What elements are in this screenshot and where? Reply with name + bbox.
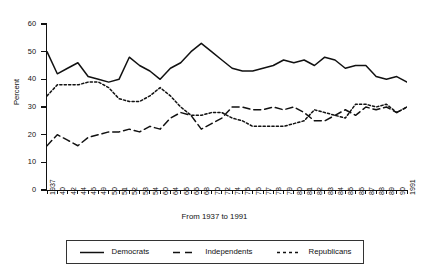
- x-axis-tick: [47, 190, 48, 194]
- x-axis-tick: [129, 190, 130, 194]
- legend-item-democrats[interactable]: Democrats: [79, 248, 150, 257]
- legend-swatch-dashed-icon: [172, 248, 198, 257]
- x-axis-tick: [191, 190, 192, 194]
- x-axis-tick: [396, 190, 397, 194]
- y-axis-tick: [41, 106, 46, 107]
- x-axis-tick: [263, 190, 264, 194]
- x-axis-tick: [67, 190, 68, 194]
- y-axis-tick-label: 60: [2, 20, 36, 27]
- x-axis-tick: [180, 190, 181, 194]
- x-axis-tick-label: 1991: [410, 179, 417, 195]
- y-axis-tick: [41, 23, 46, 24]
- x-axis-tick: [77, 190, 78, 194]
- chart-figure: Percent 0102030405060 193740424446495051…: [0, 0, 429, 272]
- x-axis-tick: [407, 190, 408, 194]
- series-lines: [47, 24, 407, 190]
- y-axis-tick: [41, 79, 46, 80]
- x-axis-tick: [170, 190, 171, 194]
- x-axis-tick: [88, 190, 89, 194]
- x-axis-tick: [335, 190, 336, 194]
- x-axis-tick: [386, 190, 387, 194]
- x-axis-tick: [314, 190, 315, 194]
- legend-item-independents[interactable]: Independents: [172, 248, 252, 257]
- legend-item-republicans[interactable]: Republicans: [276, 248, 352, 257]
- y-axis-tick-label: 40: [2, 75, 36, 82]
- x-axis-tick: [160, 190, 161, 194]
- y-axis-tick: [41, 51, 46, 52]
- x-axis-tick: [324, 190, 325, 194]
- legend-label: Independents: [205, 248, 252, 256]
- x-axis-tick: [283, 190, 284, 194]
- chart-legend: DemocratsIndependentsRepublicans: [66, 240, 364, 264]
- x-axis-tick: [355, 190, 356, 194]
- x-axis-tick: [149, 190, 150, 194]
- y-axis-title: Percent: [13, 62, 21, 122]
- y-axis-tick: [41, 162, 46, 163]
- x-axis-tick: [242, 190, 243, 194]
- series-line-democrats: [47, 43, 407, 82]
- x-axis-tick: [57, 190, 58, 194]
- y-axis-tick-label: 50: [2, 48, 36, 55]
- y-axis-tick: [41, 189, 46, 190]
- x-axis-tick: [139, 190, 140, 194]
- x-axis-tick: [98, 190, 99, 194]
- x-axis-tick: [304, 190, 305, 194]
- legend-label: Republicans: [309, 248, 352, 256]
- x-axis-title: From 1937 to 1991: [0, 212, 429, 221]
- y-axis-tick-label: 20: [2, 131, 36, 138]
- x-axis-tick: [119, 190, 120, 194]
- x-axis-tick: [376, 190, 377, 194]
- legend-swatch-dotted-icon: [276, 248, 302, 257]
- legend-swatch-solid-icon: [79, 248, 105, 257]
- x-axis-tick: [345, 190, 346, 194]
- x-axis-tick: [201, 190, 202, 194]
- x-axis-tick: [211, 190, 212, 194]
- y-axis-tick-label: 30: [2, 103, 36, 110]
- series-line-independents: [47, 107, 407, 146]
- y-axis-tick-label: 0: [2, 186, 36, 193]
- x-axis-tick: [232, 190, 233, 194]
- plot-area: [47, 24, 407, 190]
- x-axis-tick: [221, 190, 222, 194]
- x-axis-tick: [252, 190, 253, 194]
- x-axis-tick: [365, 190, 366, 194]
- x-axis-tick: [108, 190, 109, 194]
- y-axis-tick-label: 10: [2, 158, 36, 165]
- series-line-republicans: [47, 82, 407, 126]
- legend-label: Democrats: [112, 248, 150, 256]
- x-axis-tick: [273, 190, 274, 194]
- x-axis-tick: [293, 190, 294, 194]
- y-axis-tick: [41, 134, 46, 135]
